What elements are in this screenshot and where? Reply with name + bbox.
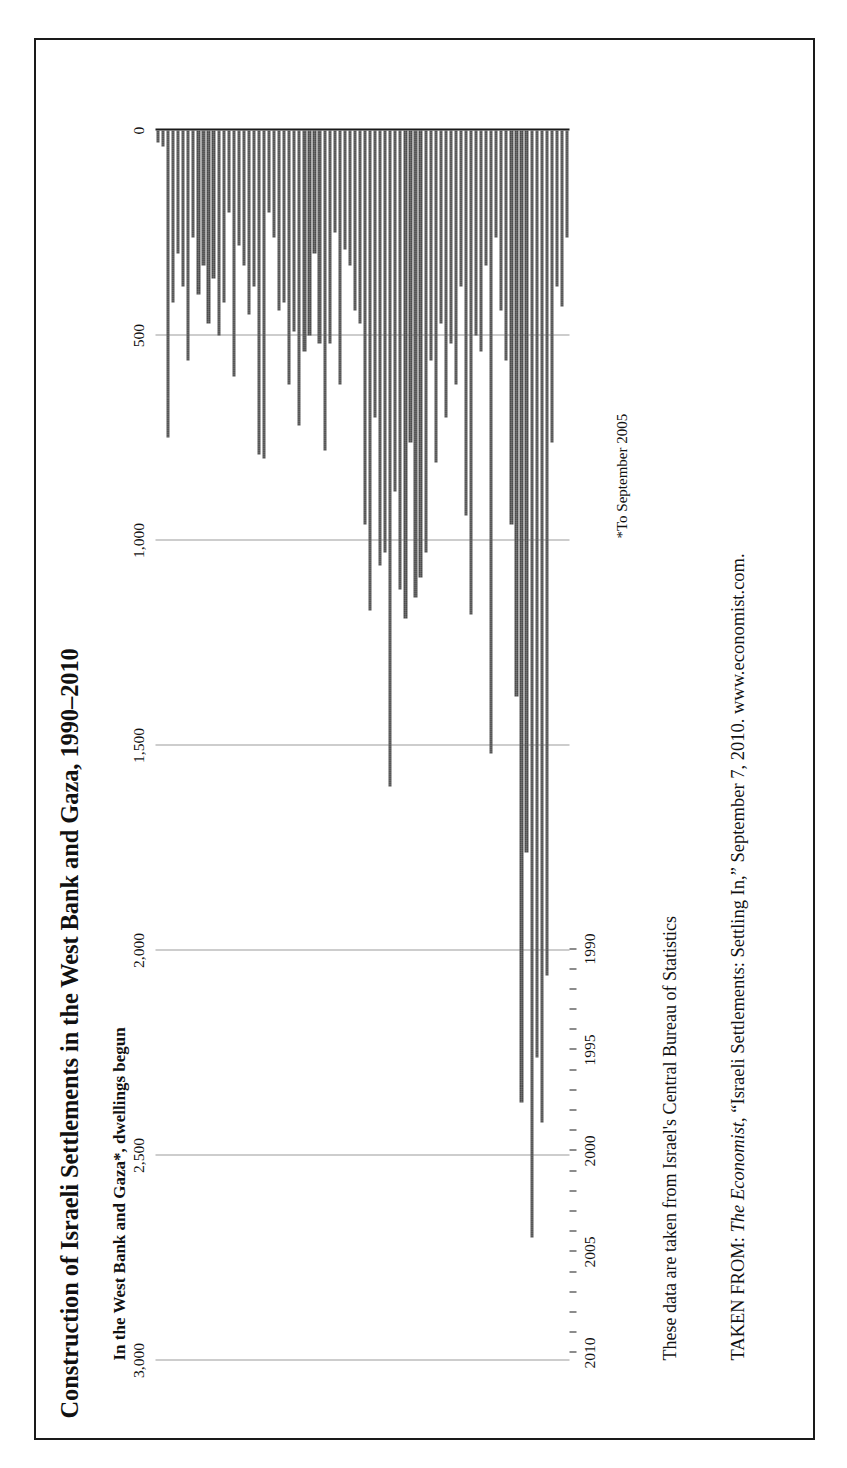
bar xyxy=(469,131,472,615)
bar xyxy=(282,131,285,303)
chart-footnote: *To September 2005 xyxy=(613,414,630,539)
bar xyxy=(494,131,497,238)
citation-publication: The Economist xyxy=(727,1122,747,1232)
bar xyxy=(560,131,563,307)
bar xyxy=(540,131,543,1123)
gridline-2000 xyxy=(155,950,569,951)
bar xyxy=(343,131,346,250)
bar xyxy=(504,131,507,361)
bar xyxy=(272,131,275,238)
bar xyxy=(287,131,290,385)
bar xyxy=(191,131,194,238)
year-tick xyxy=(569,1211,576,1212)
year-tick xyxy=(569,1352,576,1353)
bar xyxy=(348,131,351,266)
bar xyxy=(408,131,411,443)
bar xyxy=(545,131,548,976)
bar xyxy=(393,131,396,492)
bar xyxy=(166,131,169,439)
bar xyxy=(429,131,432,361)
gridline-3000 xyxy=(155,1360,569,1361)
chart-source-note: These data are taken from Israel's Centr… xyxy=(659,916,680,1361)
year-tick xyxy=(569,968,576,969)
chart-citation: TAKEN FROM: The Economist, “Israeli Sett… xyxy=(727,553,748,1360)
bar xyxy=(297,131,300,426)
bar xyxy=(358,131,361,324)
bar xyxy=(444,131,447,418)
bar xyxy=(474,131,477,336)
bar xyxy=(383,131,386,553)
bar xyxy=(242,131,245,266)
citation-rest: , “Israeli Settlements: Settling In,” Se… xyxy=(727,553,747,1122)
bar xyxy=(206,131,209,324)
year-tick xyxy=(569,1231,576,1232)
bar xyxy=(211,131,214,279)
bar xyxy=(555,131,558,287)
year-label: 2010 xyxy=(580,1337,598,1368)
year-tick xyxy=(569,1069,576,1070)
value-tick-label: 1,500 xyxy=(129,728,147,763)
year-tick xyxy=(569,1110,576,1111)
bar xyxy=(232,131,235,377)
year-label: 1995 xyxy=(580,1035,598,1066)
bar xyxy=(267,131,270,213)
gridline-1500 xyxy=(155,745,569,746)
bar xyxy=(277,131,280,311)
bar xyxy=(524,131,527,853)
bar xyxy=(217,131,220,336)
bar xyxy=(439,131,442,324)
figure: Construction of Israeli Settlements in t… xyxy=(47,55,802,1425)
year-label: 1990 xyxy=(580,934,598,965)
bar xyxy=(368,131,371,611)
bar xyxy=(424,131,427,553)
bar xyxy=(328,131,331,344)
citation-prefix: TAKEN FROM: xyxy=(727,1232,747,1360)
year-tick xyxy=(569,1130,576,1131)
bar xyxy=(323,131,326,451)
bar xyxy=(196,131,199,295)
bar xyxy=(181,131,184,287)
year-tick xyxy=(569,1190,576,1191)
bar xyxy=(434,131,437,463)
bar xyxy=(454,131,457,385)
bar xyxy=(312,131,315,254)
bar xyxy=(227,131,230,213)
bar xyxy=(530,131,533,1238)
bar xyxy=(565,131,568,238)
bar xyxy=(479,131,482,352)
bar xyxy=(499,131,502,311)
year-tick xyxy=(569,1312,576,1313)
year-tick xyxy=(569,1029,576,1030)
figure-border: Construction of Israeli Settlements in t… xyxy=(34,38,815,1440)
bar xyxy=(403,131,406,619)
bar xyxy=(201,131,204,266)
gridline-1000 xyxy=(155,540,569,541)
bar xyxy=(484,131,487,266)
bar xyxy=(171,131,174,303)
bar xyxy=(509,131,512,525)
gridline-2500 xyxy=(155,1155,569,1156)
bar xyxy=(156,131,159,143)
bar xyxy=(262,131,265,459)
year-tick xyxy=(569,1170,576,1171)
year-tick xyxy=(569,1332,576,1333)
bar xyxy=(413,131,416,598)
value-tick-label: 2,500 xyxy=(129,1138,147,1173)
bar xyxy=(489,131,492,754)
year-label: 2000 xyxy=(580,1135,598,1166)
bar xyxy=(378,131,381,566)
bar xyxy=(222,131,225,303)
bar xyxy=(252,131,255,287)
bar xyxy=(449,131,452,344)
bar xyxy=(464,131,467,516)
bar xyxy=(398,131,401,590)
year-tick xyxy=(569,1251,576,1252)
chart-bars-and-grid: 05001,0001,5002,0002,5003,000 xyxy=(155,131,569,1361)
bar xyxy=(247,131,250,316)
chart-x-axis: 19901995200020052010 xyxy=(569,131,609,1361)
bar xyxy=(176,131,179,254)
bar xyxy=(333,131,336,234)
bar xyxy=(418,131,421,578)
bar xyxy=(186,131,189,361)
year-label: 2005 xyxy=(580,1236,598,1267)
